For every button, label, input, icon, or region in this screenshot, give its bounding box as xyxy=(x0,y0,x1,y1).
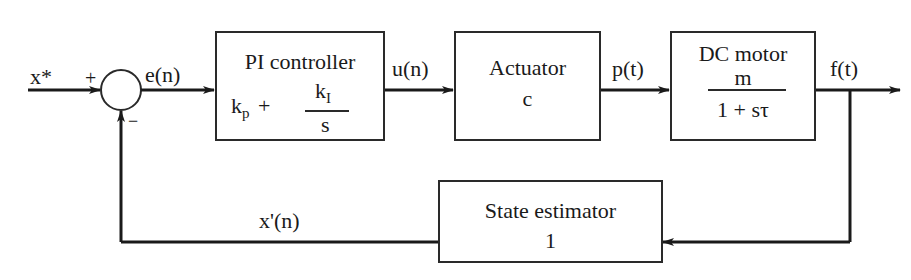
actuator-block: Actuator c xyxy=(454,31,601,141)
pi-controller-title: PI controller xyxy=(217,49,383,75)
signal-label-error: e(n) xyxy=(145,64,180,86)
dc-motor-denominator: 1 + sτ xyxy=(672,97,814,123)
plus-sign: + xyxy=(85,68,96,88)
pi-ki-denominator: s xyxy=(321,114,330,136)
pi-ki-numerator: kI xyxy=(315,80,331,106)
dc-motor-numerator: m xyxy=(672,65,814,91)
pi-controller-block: PI controller kp + kI s xyxy=(215,31,385,141)
minus-sign: − xyxy=(128,112,138,130)
actuator-title: Actuator xyxy=(456,55,599,81)
dc-motor-block: DC motor m 1 + sτ xyxy=(670,31,816,141)
state-estimator-title: State estimator xyxy=(440,198,661,224)
pi-kp-term: kp + xyxy=(231,95,270,121)
dc-motor-title: DC motor xyxy=(672,41,814,67)
signal-label-control: u(n) xyxy=(392,58,429,80)
signal-label-actuator-out: p(t) xyxy=(612,58,644,80)
state-estimator-gain: 1 xyxy=(440,228,661,254)
state-estimator-block: State estimator 1 xyxy=(438,180,663,263)
dc-motor-fraction-bar xyxy=(708,89,786,91)
signal-label-input: x* xyxy=(30,66,52,88)
actuator-gain: c xyxy=(456,86,599,112)
signal-label-feedback: x'(n) xyxy=(259,210,300,232)
signal-label-output: f(t) xyxy=(830,58,858,80)
